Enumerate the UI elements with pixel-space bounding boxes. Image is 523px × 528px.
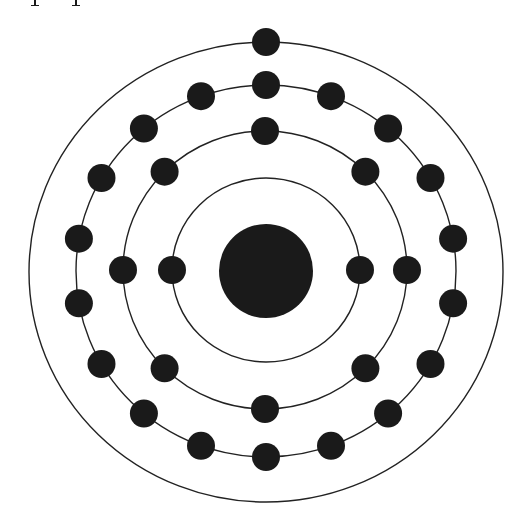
electron: [109, 256, 137, 284]
electron: [88, 350, 116, 378]
electron: [417, 350, 445, 378]
electron: [252, 28, 280, 56]
electron: [130, 400, 158, 428]
nucleus-group: [219, 224, 313, 318]
electron: [393, 256, 421, 284]
electron: [88, 164, 116, 192]
electron: [351, 354, 379, 382]
electron: [187, 82, 215, 110]
electron: [251, 117, 279, 145]
electron: [251, 395, 279, 423]
electron: [65, 289, 93, 317]
nucleus: [219, 224, 313, 318]
electron: [130, 115, 158, 143]
electron: [158, 256, 186, 284]
electron: [351, 158, 379, 186]
electron: [187, 432, 215, 460]
electron: [252, 443, 280, 471]
electron: [151, 354, 179, 382]
electron: [374, 115, 402, 143]
electron: [346, 256, 374, 284]
electron: [317, 432, 345, 460]
electron: [439, 225, 467, 253]
electron: [439, 289, 467, 317]
electron: [417, 164, 445, 192]
electron: [151, 158, 179, 186]
electron: [317, 82, 345, 110]
electron: [65, 225, 93, 253]
bohr-atom-diagram: [0, 0, 523, 528]
electron: [252, 71, 280, 99]
electron: [374, 400, 402, 428]
